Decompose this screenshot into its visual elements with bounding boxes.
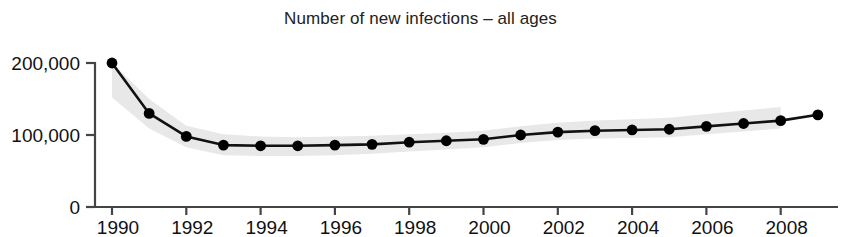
svg-text:2008: 2008 <box>766 217 808 237</box>
svg-text:0: 0 <box>69 197 80 218</box>
svg-text:2000: 2000 <box>468 217 510 237</box>
svg-text:1998: 1998 <box>394 217 436 237</box>
svg-text:1992: 1992 <box>171 217 213 237</box>
svg-text:2006: 2006 <box>691 217 733 237</box>
svg-text:1994: 1994 <box>245 217 288 237</box>
chart-plot-area: 0100,000200,000 199019921994199619982000… <box>0 0 841 237</box>
chart-figure: Number of new infections – all ages 0100… <box>0 0 841 237</box>
x-axis-tick-labels: 1990199219941996199820002002200420062008 <box>97 217 808 237</box>
svg-text:200,000: 200,000 <box>11 53 80 74</box>
svg-text:1996: 1996 <box>320 217 362 237</box>
y-axis-tick-labels: 0100,000200,000 <box>11 53 80 218</box>
svg-text:2004: 2004 <box>617 217 660 237</box>
svg-text:100,000: 100,000 <box>11 125 80 146</box>
svg-text:2002: 2002 <box>543 217 585 237</box>
svg-text:1990: 1990 <box>97 217 139 237</box>
